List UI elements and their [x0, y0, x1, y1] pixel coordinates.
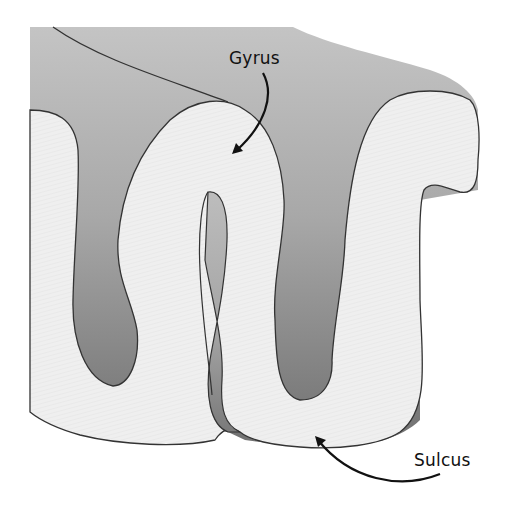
brain-cortex-diagram [0, 0, 513, 506]
sulcus-label: Sulcus [414, 450, 470, 470]
gyrus-label: Gyrus [229, 48, 280, 68]
